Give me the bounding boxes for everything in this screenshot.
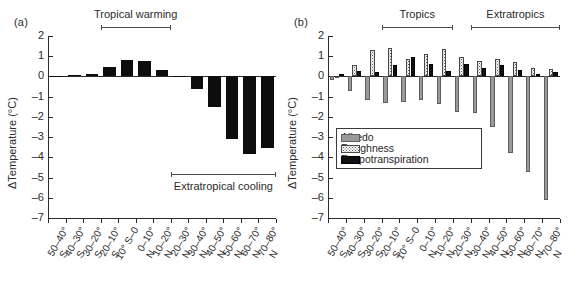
y-tick-label: 2	[22, 29, 44, 41]
bar	[339, 74, 343, 76]
x-tick-mark	[382, 219, 383, 223]
annotation-bracket	[471, 25, 560, 30]
y-tick-mark	[329, 137, 333, 138]
panel-b-y-axis-label: ΔTemperature (°C)	[286, 97, 298, 189]
bar	[536, 74, 540, 77]
x-tick-mark	[206, 219, 207, 223]
x-tick-mark	[435, 219, 436, 223]
bar	[446, 71, 450, 76]
y-tick-label: –5	[302, 171, 324, 183]
bar	[553, 72, 557, 76]
bar	[419, 76, 423, 99]
y-tick-label: –7	[302, 211, 324, 223]
y-tick-mark	[49, 117, 53, 118]
y-tick-mark	[329, 218, 333, 219]
x-tick-mark	[66, 219, 67, 223]
zero-baseline	[48, 76, 276, 77]
x-tick-mark	[83, 219, 84, 223]
y-tick-label: –6	[302, 191, 324, 203]
annotation-bracket	[382, 25, 453, 30]
x-tick-mark	[276, 219, 277, 223]
x-tick-mark	[223, 219, 224, 223]
x-tick-mark	[346, 219, 347, 223]
y-tick-mark	[49, 178, 53, 179]
y-axis-line	[48, 36, 49, 218]
legend: AlbedoRoughnessEvapotranspiration	[336, 128, 482, 169]
y-tick-label: –5	[22, 171, 44, 183]
bar	[330, 76, 334, 80]
y-axis-line	[328, 36, 329, 218]
bar	[518, 70, 522, 76]
y-tick-mark	[49, 218, 53, 219]
bar	[173, 76, 186, 77]
x-tick-mark	[118, 219, 119, 223]
x-tick-mark	[542, 219, 543, 223]
x-tick-mark	[524, 219, 525, 223]
bar	[424, 54, 428, 77]
y-tick-label: –6	[22, 191, 44, 203]
x-tick-mark	[171, 219, 172, 223]
bar	[459, 57, 463, 77]
x-tick-mark	[489, 219, 490, 223]
x-tick-mark	[471, 219, 472, 223]
y-tick-label: –3	[22, 130, 44, 142]
x-tick-mark	[153, 219, 154, 223]
bar	[490, 76, 494, 126]
bar	[455, 76, 459, 112]
panel-a-tag: (a)	[14, 16, 28, 28]
bar	[401, 76, 405, 102]
bar	[406, 59, 410, 77]
y-tick-mark	[329, 117, 333, 118]
y-tick-label: –2	[302, 110, 324, 122]
bar	[352, 65, 356, 76]
y-tick-mark	[329, 97, 333, 98]
legend-item: Evapotranspiration	[341, 154, 477, 165]
bar	[68, 75, 81, 77]
legend-swatch-albedo	[341, 134, 360, 142]
annotation-bracket	[101, 25, 171, 30]
y-tick-mark	[49, 97, 53, 98]
y-tick-mark	[329, 157, 333, 158]
panel-b: (b) ΔTemperature (°C) 210–1–2–3–4–5–6–75…	[290, 0, 581, 289]
bar	[477, 61, 481, 76]
bar	[370, 50, 374, 77]
y-tick-mark	[49, 36, 53, 37]
x-tick-mark	[417, 219, 418, 223]
y-tick-mark	[49, 198, 53, 199]
bar	[544, 76, 548, 199]
x-tick-mark	[136, 219, 137, 223]
y-tick-label: –2	[22, 110, 44, 122]
bar	[375, 72, 379, 76]
x-tick-mark	[364, 219, 365, 223]
bar	[429, 64, 433, 77]
y-tick-mark	[329, 36, 333, 37]
y-tick-label: –1	[22, 90, 44, 102]
x-tick-mark	[241, 219, 242, 223]
bar	[335, 76, 339, 78]
bar	[495, 59, 499, 77]
bar	[156, 70, 169, 76]
bar	[138, 61, 151, 77]
bar	[473, 76, 477, 112]
bar	[365, 76, 369, 99]
y-tick-mark	[329, 198, 333, 199]
annotation-label: Tropics	[399, 8, 435, 20]
figure-root: (a) ΔTemperature (°C) 210–1–2–3–4–5–6–75…	[0, 0, 581, 289]
annotation-bracket	[171, 172, 276, 177]
annotation-label: Extratropics	[486, 8, 544, 20]
bar	[526, 76, 530, 171]
bar	[50, 76, 63, 77]
bar	[226, 76, 239, 139]
x-tick-mark	[188, 219, 189, 223]
y-tick-label: –3	[302, 130, 324, 142]
y-tick-label: –4	[302, 150, 324, 162]
legend-swatch-roughness	[341, 145, 360, 153]
x-tick-mark	[506, 219, 507, 223]
bar	[531, 68, 535, 77]
panel-a: (a) ΔTemperature (°C) 210–1–2–3–4–5–6–75…	[0, 0, 290, 289]
bar	[500, 65, 504, 77]
y-tick-label: –4	[22, 150, 44, 162]
y-tick-mark	[49, 137, 53, 138]
y-tick-label: 0	[302, 69, 324, 81]
legend-swatch-evap	[341, 156, 360, 164]
